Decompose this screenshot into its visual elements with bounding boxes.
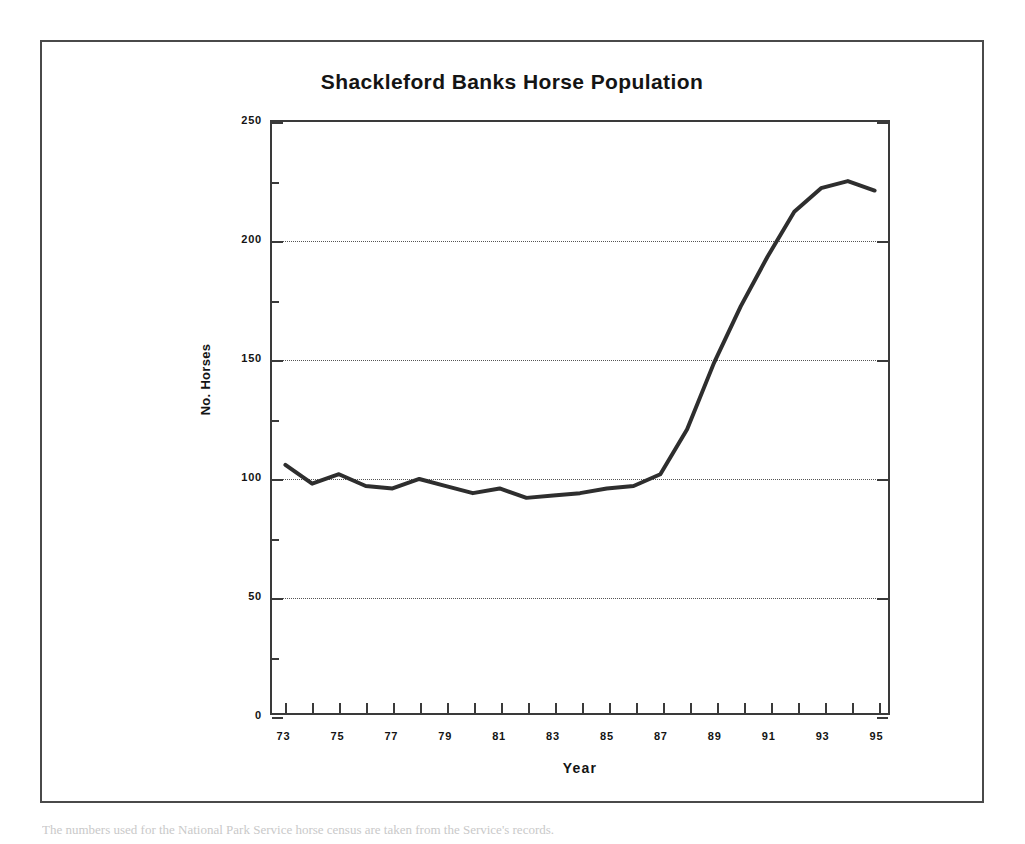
x-axis-tick-labels: 737577798183858789919395	[270, 730, 890, 754]
x-tick-label-89: 89	[708, 730, 722, 742]
y-axis-tick-labels: 050100150200250	[202, 120, 262, 715]
x-tick-label-75: 75	[330, 730, 344, 742]
y-tick-label-200: 200	[241, 233, 262, 245]
x-tick-label-73: 73	[277, 730, 291, 742]
x-tick-label-87: 87	[654, 730, 668, 742]
x-tick-label-95: 95	[870, 730, 884, 742]
y-axis-title: No. Horses	[198, 344, 213, 416]
y-tick-label-250: 250	[241, 114, 262, 126]
figure-frame: Shackleford Banks Horse Population 05010…	[40, 40, 984, 803]
y-tick-label-0: 0	[255, 709, 262, 721]
x-tick-label-77: 77	[384, 730, 398, 742]
series-polyline	[285, 181, 874, 498]
x-tick-label-79: 79	[438, 730, 452, 742]
y-tick-label-150: 150	[241, 352, 262, 364]
y-tick-label-50: 50	[248, 590, 262, 602]
x-tick-label-91: 91	[762, 730, 776, 742]
line-series	[272, 122, 888, 713]
page-caption: The numbers used for the National Park S…	[42, 822, 942, 838]
x-tick-label-85: 85	[600, 730, 614, 742]
x-axis-title: Year	[270, 760, 890, 776]
x-tick-label-81: 81	[492, 730, 506, 742]
y-tick-0	[272, 717, 283, 719]
x-tick-label-83: 83	[546, 730, 560, 742]
x-tick-label-93: 93	[816, 730, 830, 742]
y-tick-label-100: 100	[241, 471, 262, 483]
plot-area	[270, 120, 890, 715]
chart-title: Shackleford Banks Horse Population	[42, 70, 982, 94]
y-tick-right-0	[877, 717, 888, 719]
